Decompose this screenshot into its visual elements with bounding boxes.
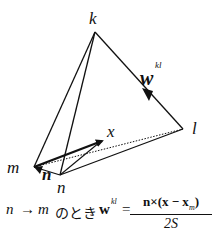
vector-label-w-superscript: kl — [155, 60, 162, 70]
numerator-text: n×(x − x — [143, 194, 189, 209]
edge-k-n — [60, 32, 95, 175]
point-label-x: x — [107, 123, 115, 140]
w-arrowhead-icon — [142, 88, 153, 101]
formula-fraction: n×(x − xm) 2S — [130, 194, 212, 231]
formula-w-sup: kl — [111, 197, 117, 206]
formula-w: w — [99, 201, 110, 218]
formula-denominator: 2S — [130, 216, 212, 231]
numerator-close: ) — [195, 194, 199, 209]
formula-numerator: n×(x − xm) — [130, 194, 212, 212]
formula-m: m — [38, 201, 49, 218]
vertex-label-l: l — [192, 120, 197, 137]
fraction-bar — [130, 214, 212, 215]
edge-n-l — [60, 129, 183, 175]
vertex-label-k: k — [89, 10, 97, 27]
formula-arrow: → — [20, 201, 35, 218]
normal-label-n: n — [42, 166, 51, 183]
vertex-label-m: m — [7, 159, 19, 176]
formula: n → m のとき w kl = n×(x − xm) 2S — [4, 194, 212, 230]
edge-k-l — [95, 32, 183, 129]
formula-japanese: のとき — [55, 202, 97, 222]
vector-label-w: w — [140, 68, 153, 88]
formula-n: n — [6, 201, 14, 218]
